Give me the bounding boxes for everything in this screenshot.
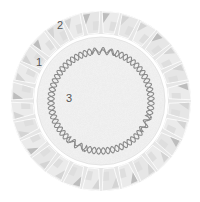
virus-diagram: [0, 0, 200, 202]
label-3: 3: [66, 93, 72, 104]
core: [37, 37, 165, 165]
label-2: 2: [57, 20, 63, 31]
label-1: 1: [36, 57, 42, 68]
